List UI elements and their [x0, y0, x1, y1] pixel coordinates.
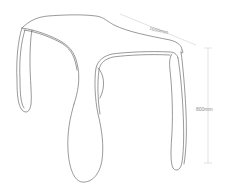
left-back-leg-outer: [17, 28, 32, 112]
front-leg-inner: [98, 55, 170, 114]
seat-right-edge: [181, 50, 183, 53]
height-dimension-label: 800mm: [196, 106, 213, 112]
stool-outline: [17, 15, 187, 182]
right-leg-outer: [170, 54, 184, 170]
left-back-leg-inner: [20, 30, 25, 108]
front-leg-outer: [68, 52, 178, 182]
stool-drawing: [0, 0, 228, 189]
dimension-lines: [120, 14, 212, 163]
